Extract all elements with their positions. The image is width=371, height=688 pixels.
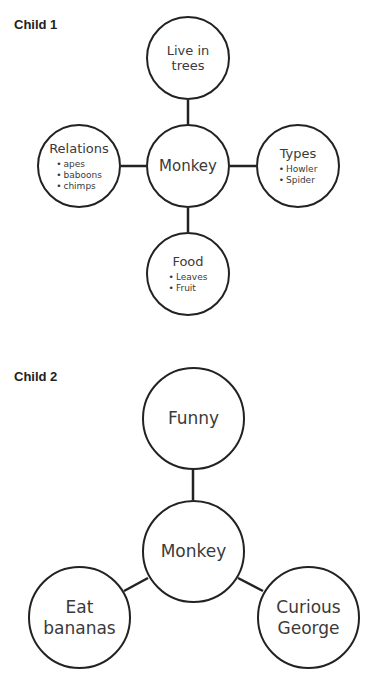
connector2-right (238, 578, 263, 591)
node-label: Food (172, 254, 203, 269)
list-item: Spider (279, 175, 318, 186)
node-label: George (278, 618, 340, 639)
node-label: Eat (66, 597, 94, 618)
node-relations: Relations apes baboons chimps (37, 124, 121, 208)
node-funny: Funny (142, 367, 245, 470)
list-item: chimps (56, 181, 102, 192)
relations-list: apes baboons chimps (56, 159, 102, 192)
node-label: Monkey (159, 159, 217, 174)
node-food: Food Leaves Fruit (146, 232, 230, 316)
node-label: trees (172, 58, 205, 73)
list-item: baboons (56, 170, 102, 181)
types-list: Howler Spider (279, 164, 318, 186)
node-label: Funny (168, 408, 219, 429)
node-curious-george: Curious George (257, 566, 360, 669)
node-center-monkey-2: Monkey (142, 500, 245, 603)
node-label: Types (280, 146, 317, 161)
list-item: Leaves (169, 272, 208, 283)
node-eat-bananas: Eat bananas (28, 566, 131, 669)
food-list: Leaves Fruit (169, 272, 208, 294)
connector2-left (124, 578, 148, 591)
node-label: Curious (276, 597, 340, 618)
node-label: Relations (49, 141, 109, 156)
list-item: apes (56, 159, 102, 170)
list-item: Fruit (169, 283, 208, 294)
node-types: Types Howler Spider (256, 124, 340, 208)
node-label: bananas (43, 618, 115, 639)
node-center-monkey: Monkey (146, 124, 230, 208)
list-item: Howler (279, 164, 318, 175)
node-live-in-trees: Live in trees (146, 16, 230, 100)
node-label: Monkey (161, 541, 227, 562)
node-label: Live in (167, 43, 210, 58)
